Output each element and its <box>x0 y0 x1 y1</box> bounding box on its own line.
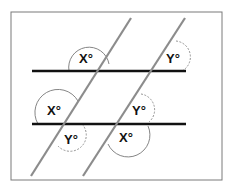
label-bottom-left-lower: Y° <box>64 132 78 147</box>
label-bottom-right-upper: Y° <box>132 103 146 118</box>
frame <box>11 12 222 180</box>
label-top-right: Y° <box>166 51 180 66</box>
label-top-left: X° <box>79 51 93 66</box>
label-bottom-left-upper: X° <box>47 103 61 118</box>
label-bottom-right-lower: X° <box>119 130 133 145</box>
diagram-canvas: X° Y° X° Y° Y° X° <box>0 0 229 188</box>
